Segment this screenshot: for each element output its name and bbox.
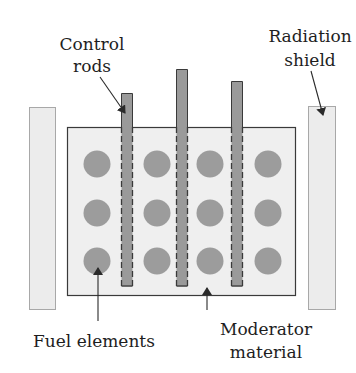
control-rod [122, 94, 133, 287]
fuel-element [84, 151, 111, 178]
control-rod [232, 82, 243, 287]
fuel-element [197, 200, 224, 227]
label-fuel-elements: Fuel elements [33, 331, 155, 351]
fuel-element [144, 151, 171, 178]
right-radiation-shield [309, 107, 336, 310]
label-control: Control [60, 34, 125, 54]
label-shield: shield [284, 50, 336, 70]
label-moderator: Moderator [220, 319, 313, 339]
fuel-element [144, 200, 171, 227]
fuel-element [84, 248, 111, 275]
label-radiation: Radiation [268, 26, 351, 46]
fuel-element [197, 151, 224, 178]
fuel-element [144, 248, 171, 275]
fuel-element [84, 200, 111, 227]
left-radiation-shield [30, 108, 56, 310]
label-rods: rods [73, 56, 111, 76]
control-rod [177, 70, 188, 287]
reactor-diagram: Control rods Radiation shield Fuel eleme… [0, 0, 356, 373]
fuel-element [197, 248, 224, 275]
fuel-element [255, 151, 282, 178]
label-material: material [230, 342, 302, 362]
fuel-element [255, 200, 282, 227]
fuel-element [255, 248, 282, 275]
